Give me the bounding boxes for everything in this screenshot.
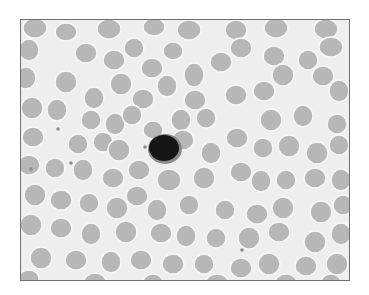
red-blood-cell bbox=[230, 162, 252, 182]
red-blood-cell bbox=[253, 81, 275, 101]
red-blood-cell bbox=[264, 20, 288, 38]
red-blood-cell bbox=[327, 114, 347, 134]
red-blood-cell bbox=[225, 85, 247, 105]
red-blood-cell bbox=[230, 258, 252, 278]
red-blood-cell bbox=[97, 20, 121, 39]
red-blood-cell bbox=[295, 256, 317, 276]
red-blood-cell bbox=[141, 58, 163, 78]
red-blood-cell bbox=[177, 20, 201, 40]
red-blood-cell bbox=[246, 204, 268, 224]
red-blood-cell bbox=[331, 223, 349, 245]
platelet bbox=[143, 145, 147, 149]
red-blood-cell bbox=[179, 195, 199, 215]
red-blood-cell bbox=[21, 214, 42, 236]
red-blood-cell bbox=[55, 71, 77, 93]
red-blood-cell bbox=[319, 37, 343, 57]
red-blood-cell bbox=[268, 222, 290, 242]
red-blood-cell bbox=[157, 169, 181, 191]
red-blood-cell bbox=[304, 231, 326, 253]
platelet bbox=[56, 127, 60, 131]
red-blood-cell bbox=[193, 167, 215, 189]
red-blood-cell bbox=[312, 66, 334, 86]
red-blood-cell bbox=[272, 64, 294, 86]
red-blood-cell bbox=[122, 105, 142, 125]
red-blood-cell bbox=[184, 63, 204, 87]
red-blood-cell bbox=[157, 75, 177, 97]
red-blood-cell bbox=[108, 139, 130, 161]
red-blood-cell bbox=[304, 168, 326, 188]
red-blood-cell bbox=[102, 168, 124, 188]
red-blood-cell bbox=[143, 20, 165, 36]
red-blood-cell bbox=[230, 38, 252, 58]
platelet bbox=[69, 161, 73, 165]
red-blood-cell bbox=[263, 46, 285, 66]
red-blood-cell bbox=[147, 199, 167, 221]
red-blood-cell bbox=[81, 110, 101, 130]
red-blood-cell bbox=[130, 250, 152, 270]
red-blood-cell bbox=[184, 90, 206, 110]
red-blood-cell bbox=[84, 87, 104, 109]
red-blood-cell bbox=[272, 197, 294, 219]
red-blood-cell bbox=[30, 247, 52, 269]
micrograph-canvas bbox=[21, 20, 349, 280]
red-blood-cell bbox=[45, 158, 65, 178]
platelet bbox=[240, 248, 244, 252]
red-blood-cell bbox=[21, 67, 36, 89]
lymphocyte-nucleus bbox=[149, 135, 179, 161]
red-blood-cell bbox=[65, 250, 87, 270]
red-blood-cell bbox=[329, 80, 349, 102]
red-blood-cell bbox=[329, 135, 349, 155]
red-blood-cell bbox=[276, 170, 296, 190]
red-blood-cell bbox=[81, 223, 101, 245]
red-blood-cell bbox=[210, 52, 232, 72]
red-blood-cell bbox=[106, 197, 128, 219]
red-blood-cell bbox=[162, 254, 184, 274]
red-blood-cell bbox=[24, 184, 46, 206]
red-blood-cell bbox=[251, 170, 271, 192]
red-blood-cell bbox=[333, 195, 349, 215]
red-blood-cell bbox=[163, 42, 183, 60]
red-blood-cell bbox=[293, 105, 313, 127]
red-blood-cell bbox=[194, 254, 214, 274]
red-blood-cell bbox=[196, 108, 216, 128]
red-blood-cell bbox=[23, 20, 47, 38]
red-blood-cell bbox=[253, 138, 273, 158]
red-blood-cell bbox=[238, 227, 260, 249]
red-blood-cell bbox=[258, 253, 280, 275]
red-blood-cell bbox=[75, 43, 97, 63]
red-blood-cell bbox=[126, 186, 148, 206]
red-blood-cell bbox=[50, 190, 72, 210]
red-blood-cell bbox=[225, 20, 247, 40]
red-blood-cell bbox=[278, 135, 300, 157]
red-blood-cell bbox=[103, 50, 125, 70]
red-blood-cell bbox=[201, 142, 221, 164]
red-blood-cell bbox=[68, 134, 88, 154]
red-blood-cell bbox=[215, 200, 235, 220]
red-blood-cell bbox=[47, 99, 67, 121]
red-blood-cell bbox=[79, 193, 99, 213]
red-blood-cell bbox=[50, 218, 72, 238]
red-blood-cell bbox=[310, 201, 332, 223]
red-blood-cell bbox=[331, 169, 349, 191]
red-blood-cell bbox=[55, 23, 77, 41]
red-blood-cell bbox=[21, 39, 39, 61]
red-blood-cell bbox=[260, 109, 282, 131]
red-blood-cell bbox=[115, 221, 137, 243]
red-blood-cell bbox=[298, 50, 318, 70]
red-blood-cell bbox=[206, 228, 226, 248]
red-blood-cell bbox=[326, 253, 348, 275]
red-blood-cell bbox=[226, 128, 248, 148]
red-blood-cell bbox=[21, 97, 43, 119]
red-blood-cell bbox=[306, 142, 328, 164]
platelet bbox=[29, 167, 33, 171]
red-blood-cell bbox=[101, 251, 121, 273]
red-blood-cell bbox=[150, 223, 172, 243]
red-blood-cell bbox=[124, 38, 144, 58]
red-blood-cell bbox=[171, 109, 191, 131]
red-blood-cell bbox=[110, 73, 132, 95]
red-blood-cell bbox=[314, 20, 338, 39]
red-blood-cell bbox=[73, 159, 93, 181]
red-blood-cell bbox=[22, 127, 44, 147]
red-blood-cell bbox=[21, 155, 40, 175]
red-blood-cell bbox=[128, 160, 150, 180]
